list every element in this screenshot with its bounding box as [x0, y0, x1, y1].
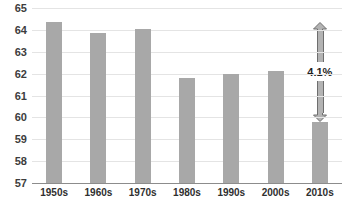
y-axis-tick-label: 63: [15, 46, 27, 57]
gridline: [32, 52, 342, 53]
x-axis-tick-label-1990s: 1990s: [217, 188, 245, 198]
y-axis-tick-label: 60: [15, 112, 27, 123]
y-axis-tick-label: 62: [15, 68, 27, 79]
y-axis-tick-label: 58: [15, 156, 27, 167]
x-axis-tick-label-2010s: 2010s: [306, 188, 334, 198]
bar-1960s[interactable]: [90, 33, 106, 184]
y-axis-tick-label: 59: [15, 134, 27, 145]
annotation-label: 4.1%: [306, 67, 333, 78]
gridline: [32, 74, 342, 75]
bar-2000s[interactable]: [268, 71, 284, 183]
x-axis-tick-label-1950s: 1950s: [40, 188, 68, 198]
x-axis-line: [32, 183, 342, 184]
y-axis-tick-label: 64: [15, 24, 27, 35]
y-axis-tick-label: 61: [15, 90, 27, 101]
bar-1950s[interactable]: [46, 22, 62, 183]
x-axis-tick-label-1960s: 1960s: [85, 188, 113, 198]
y-axis-tick-label: 65: [15, 3, 27, 14]
plot-area: 4.1% 5758596061626364651950s1960s1970s19…: [32, 8, 342, 183]
x-axis-tick-label-1970s: 1970s: [129, 188, 157, 198]
arrow-shaft-upper: [317, 31, 324, 62]
y-axis-tick-label: 57: [15, 178, 27, 189]
bar-1990s[interactable]: [223, 74, 239, 183]
arrow-shaft-lower: [317, 81, 324, 113]
gridline: [32, 30, 342, 31]
chart-screenshot: 4.1% 5758596061626364651950s1960s1970s19…: [0, 0, 347, 213]
x-axis-tick-label-2000s: 2000s: [262, 188, 290, 198]
bar-1970s[interactable]: [135, 29, 151, 183]
bar-2010s[interactable]: [312, 122, 328, 183]
x-axis-tick-label-1980s: 1980s: [173, 188, 201, 198]
gridline: [32, 8, 342, 9]
bar-1980s[interactable]: [179, 78, 195, 183]
